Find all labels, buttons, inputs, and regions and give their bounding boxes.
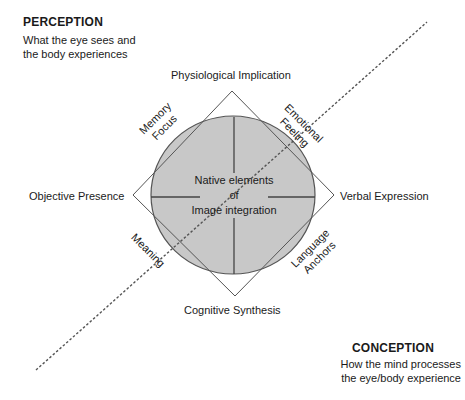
label-verbal-expression: Verbal Expression <box>340 190 429 202</box>
label-physiological-implication: Physiological Implication <box>171 69 291 81</box>
perception-line-1: What the eye sees and <box>23 33 136 47</box>
center-line-2: of <box>170 188 298 203</box>
conception-description: How the mind processes the eye/body expe… <box>323 357 461 385</box>
perception-title: PERCEPTION <box>23 15 103 29</box>
label-objective-presence: Objective Presence <box>29 190 124 202</box>
perception-line-2: the body experiences <box>23 47 136 61</box>
center-line-1: Native elements <box>170 173 298 188</box>
conception-line-1: How the mind processes <box>323 357 461 371</box>
center-label: Native elements of Image integration <box>170 173 298 218</box>
perception-description: What the eye sees and the body experienc… <box>23 33 136 61</box>
center-line-3: Image integration <box>170 203 298 218</box>
conception-line-2: the eye/body experience <box>323 371 461 385</box>
label-cognitive-synthesis: Cognitive Synthesis <box>184 304 281 316</box>
conception-title: CONCEPTION <box>352 341 434 355</box>
